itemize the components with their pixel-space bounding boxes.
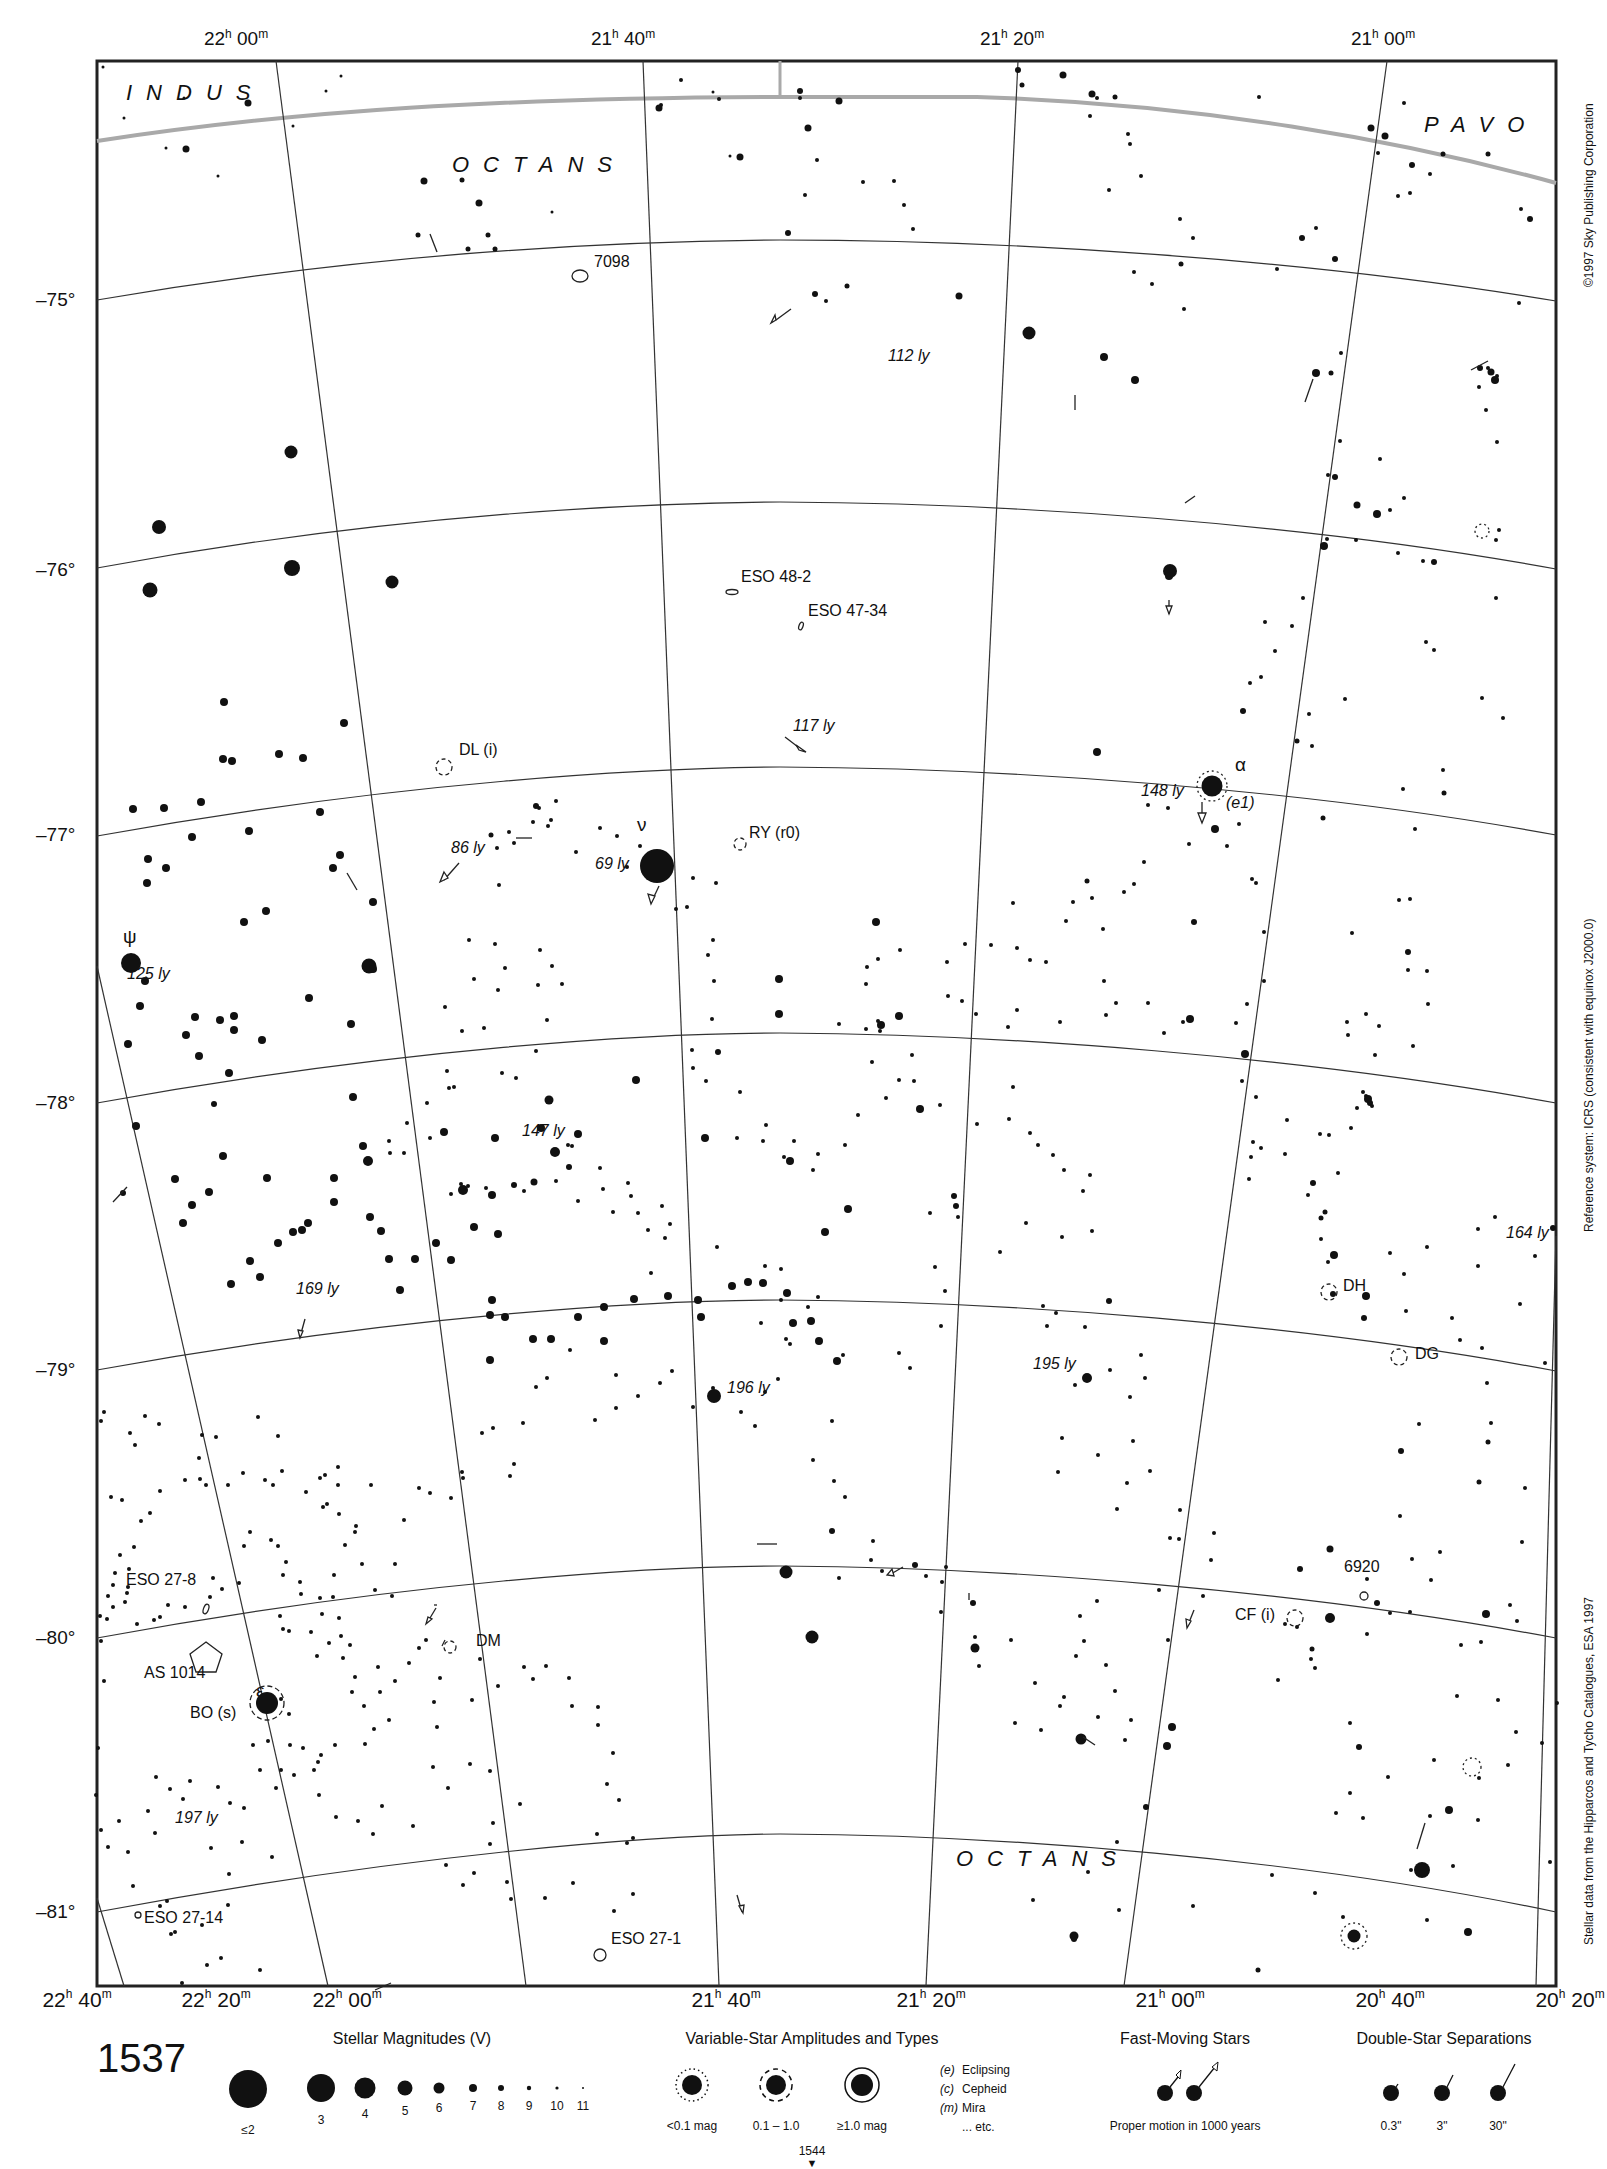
star (522, 1665, 526, 1669)
star (281, 1627, 285, 1631)
deep-sky-objects (135, 270, 1368, 1961)
star (691, 1066, 695, 1070)
star (1442, 791, 1447, 796)
star (1485, 1381, 1489, 1385)
star (209, 1846, 213, 1850)
star (1404, 1309, 1408, 1313)
star (1056, 1470, 1060, 1474)
variable-amplitude-label: 0.1 – 1.0 (753, 2119, 800, 2133)
star (216, 1016, 224, 1024)
star (550, 964, 554, 968)
star (712, 979, 716, 983)
star (1398, 1448, 1404, 1454)
ra-label-top: 21h 20m (980, 28, 1044, 50)
star (1319, 1237, 1323, 1241)
star (336, 1465, 340, 1469)
star (266, 1739, 270, 1743)
star (198, 1477, 202, 1481)
star (258, 1036, 266, 1044)
star (366, 1213, 374, 1221)
star (136, 1002, 144, 1010)
star (1480, 1346, 1484, 1350)
star (1028, 958, 1032, 962)
star (1310, 744, 1314, 748)
star (363, 1742, 367, 1746)
star (461, 1883, 465, 1887)
star (334, 1815, 338, 1819)
star (1548, 1860, 1552, 1864)
star (1163, 1742, 1171, 1750)
star (1081, 1189, 1085, 1193)
legend-double-symbols (1370, 2060, 1520, 2105)
star (356, 1819, 360, 1823)
star (340, 75, 343, 78)
star (779, 1298, 783, 1302)
star (1096, 1715, 1100, 1719)
star (111, 1605, 115, 1609)
star (570, 1704, 574, 1708)
star (759, 1279, 767, 1287)
star (1113, 1689, 1117, 1693)
star (1107, 188, 1111, 192)
star (496, 988, 500, 992)
star (188, 833, 196, 841)
star (1345, 1020, 1349, 1024)
star (509, 1897, 513, 1901)
star (1033, 1681, 1037, 1685)
double-separation-label: 3" (1437, 2119, 1448, 2133)
star (679, 78, 683, 82)
star (160, 804, 168, 812)
star (1489, 1421, 1493, 1425)
star (1354, 502, 1361, 509)
star (1178, 217, 1182, 221)
star (1428, 1814, 1432, 1818)
star (1310, 1180, 1316, 1186)
star (445, 1069, 449, 1073)
star (944, 1565, 948, 1569)
star (219, 1956, 223, 1960)
star (146, 1809, 150, 1813)
next-page-link[interactable]: 1544▼ (799, 2145, 826, 2169)
star (333, 1743, 337, 1747)
star (166, 1603, 170, 1607)
star (1426, 1002, 1430, 1006)
star (939, 1324, 943, 1328)
star (576, 1199, 580, 1203)
star (545, 1376, 549, 1380)
star (1401, 787, 1405, 791)
star (1425, 1245, 1429, 1249)
star (1225, 844, 1229, 848)
star (96, 1746, 100, 1750)
galaxy-ngc7098 (572, 270, 588, 282)
star (360, 1562, 364, 1566)
star (230, 1026, 238, 1034)
star (664, 1292, 672, 1300)
star (568, 1348, 572, 1352)
star (536, 983, 540, 987)
star (1397, 898, 1401, 902)
greek-label-epsilon: ε (256, 1680, 264, 1702)
chart-frame (97, 61, 1556, 1986)
star (123, 1600, 127, 1604)
star (640, 849, 674, 883)
star (898, 948, 902, 952)
star (168, 1787, 172, 1791)
star (1090, 896, 1094, 900)
star (878, 1029, 882, 1033)
star (1506, 1763, 1510, 1767)
star (301, 1746, 305, 1750)
star (780, 1566, 793, 1579)
star (337, 1616, 341, 1620)
star (152, 1618, 156, 1622)
star (1202, 776, 1223, 797)
star (1297, 1566, 1303, 1572)
dec-label: –76° (36, 559, 75, 581)
star (309, 1630, 313, 1634)
star (347, 1020, 355, 1028)
star (815, 158, 819, 162)
star (1424, 640, 1428, 644)
star (1325, 537, 1329, 541)
star (1356, 1744, 1362, 1750)
star (614, 1406, 618, 1410)
chevron-down-icon: ▼ (799, 2158, 826, 2169)
